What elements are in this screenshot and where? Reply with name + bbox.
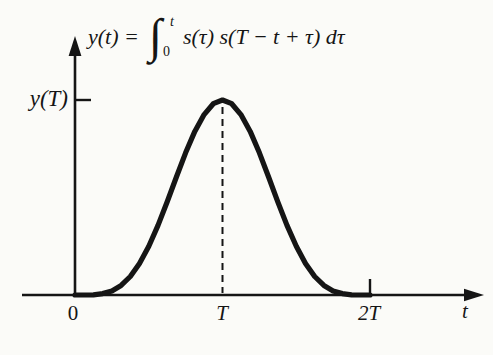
y-axis-value-label: y(T) <box>14 86 68 112</box>
y-axis-arrowhead-icon <box>69 36 82 56</box>
matched-filter-output-figure: y(t) = ∫ t 0 s(τ) s(T − t + τ) dτ y(T) 0… <box>0 0 493 355</box>
x-tick-label-T: T <box>206 301 238 326</box>
formula-integrand: s(τ) s(T − t + τ) dτ <box>183 24 345 50</box>
formula-lhs: y(t) = <box>88 24 139 50</box>
x-tick-label-2T: 2T <box>347 301 391 326</box>
integral-upper-limit: t <box>170 14 174 30</box>
x-tick-label-0: 0 <box>62 301 84 326</box>
x-axis-label: t <box>462 299 484 324</box>
formula: y(t) = ∫ t 0 s(τ) s(T − t + τ) dτ <box>88 13 345 61</box>
integral-lower-limit: 0 <box>163 44 174 60</box>
integral-limits: t 0 <box>163 14 174 60</box>
integral-sign: ∫ <box>149 12 162 60</box>
